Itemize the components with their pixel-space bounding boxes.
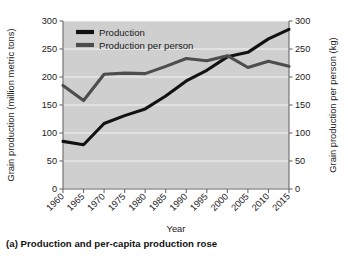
x-tick-label: 1960 <box>44 191 66 213</box>
y2-tick-label: 50 <box>295 156 305 166</box>
y-tick-label: 150 <box>42 100 57 110</box>
x-tick-label: 1990 <box>168 191 190 213</box>
legend-label-production-per-person: Production per person <box>99 40 193 51</box>
left-axis-ticks: 050100150200250300 <box>42 16 63 194</box>
y2-tick-label: 100 <box>295 128 310 138</box>
x-tick-label: 1965 <box>65 191 87 213</box>
y2-tick-label: 0 <box>295 184 300 194</box>
x-tick-label: 1980 <box>127 191 149 213</box>
x-tick-label: 1985 <box>147 191 169 213</box>
y-tick-label: 50 <box>47 156 57 166</box>
y2-tick-label: 300 <box>295 16 310 26</box>
y2-axis-title: Grain production per person (kg) <box>327 37 338 172</box>
y-axis-title: Grain production (million metric tons) <box>5 28 16 181</box>
x-tick-label: 1995 <box>188 191 210 213</box>
x-tick-label: 1970 <box>85 191 107 213</box>
figure-caption: (a) Production and per-capita production… <box>6 238 217 249</box>
grain-production-line-chart: 050100150200250300 050100150200250300 19… <box>0 0 348 258</box>
y-tick-label: 100 <box>42 128 57 138</box>
y2-tick-label: 200 <box>295 72 310 82</box>
x-tick-label: 2005 <box>229 191 251 213</box>
x-tick-label: 1975 <box>106 191 128 213</box>
y2-tick-label: 150 <box>295 100 310 110</box>
x-tick-label: 2010 <box>250 191 272 213</box>
figure-panel: 050100150200250300 050100150200250300 19… <box>0 0 348 258</box>
x-tick-label: 2015 <box>270 191 292 213</box>
y-tick-label: 250 <box>42 44 57 54</box>
x-tick-label: 2000 <box>209 191 231 213</box>
y2-tick-label: 250 <box>295 44 310 54</box>
y-tick-label: 300 <box>42 16 57 26</box>
y-tick-label: 200 <box>42 72 57 82</box>
x-axis-title: Year <box>167 223 186 234</box>
x-axis-ticks: 1960196519701975198019851990199520002005… <box>44 189 292 213</box>
legend-label-production: Production <box>99 27 145 38</box>
right-axis-ticks: 050100150200250300 <box>289 16 310 194</box>
